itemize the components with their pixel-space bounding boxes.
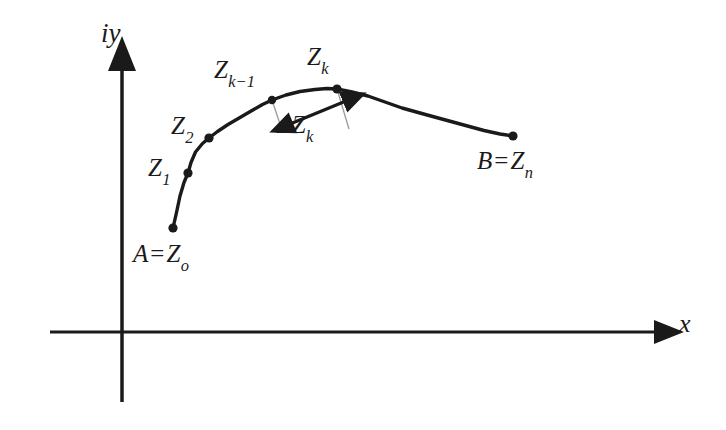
point-b-zn — [508, 131, 517, 140]
label-zk: Zk — [307, 44, 328, 75]
label-end-point: B=Zn — [477, 148, 533, 179]
complex-plane-diagram: iy x A=Zo B=Zn Z1 Z2 Zk−1 Zk ΔZk — [0, 0, 726, 430]
leader-line-zk — [337, 89, 349, 129]
point-z2 — [204, 133, 213, 142]
y-axis-label: iy — [101, 20, 121, 47]
marked-point-group — [168, 84, 517, 232]
point-a-z0 — [168, 223, 177, 232]
label-zk-minus-1: Zk−1 — [214, 57, 255, 88]
label-z1: Z1 — [148, 155, 170, 186]
point-zk — [332, 84, 341, 93]
diagram-canvas — [0, 0, 726, 430]
x-axis-label: x — [679, 311, 691, 337]
point-z1 — [183, 168, 192, 177]
axis-group — [50, 64, 660, 402]
label-z2: Z2 — [171, 113, 193, 144]
label-start-point: A=Zo — [133, 241, 189, 272]
label-delta-zk: ΔZk — [277, 112, 313, 143]
point-zk-minus-1 — [268, 96, 276, 104]
